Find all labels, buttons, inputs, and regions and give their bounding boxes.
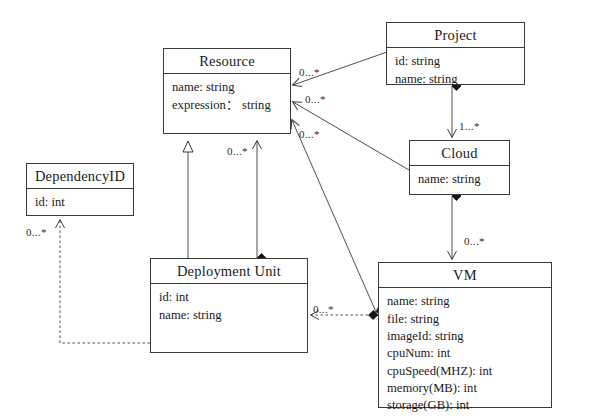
class-attributes-deployment-unit: id: int name: string — [151, 284, 307, 328]
class-attributes-resource: name: string expression： string — [164, 74, 290, 118]
attribute-row: expression： string — [172, 97, 290, 114]
class-attributes-dependencyid: id: int — [27, 189, 133, 215]
class-title-project: Project — [387, 23, 524, 48]
class-box-resource[interactable]: Resource name: string expression： string — [163, 48, 291, 134]
attribute-row: id: int — [35, 194, 133, 211]
multiplicity-label-project-resource: 0...* — [299, 66, 320, 78]
class-title-deployment-unit: Deployment Unit — [151, 259, 307, 284]
edge-cloud-vm — [452, 191, 461, 259]
class-box-project[interactable]: Project id: string name: string — [386, 22, 525, 85]
class-box-vm[interactable]: VM name: string file: string imageId: st… — [378, 262, 552, 408]
class-title-resource: Resource — [164, 49, 290, 74]
attribute-row: cpuNum: int — [387, 345, 551, 362]
uml-class-diagram: Resource name: string expression： string… — [0, 0, 591, 420]
class-box-dependencyid[interactable]: DependencyID id: int — [26, 163, 134, 216]
attribute-row: name: string — [387, 293, 551, 310]
attribute-row: file: string — [387, 311, 551, 328]
attribute-row: id: int — [159, 289, 307, 306]
class-attributes-vm: name: string file: string imageId: strin… — [379, 288, 551, 419]
class-attributes-project: id: string name: string — [387, 48, 524, 92]
edge-dependencyid-deployment — [60, 220, 160, 348]
multiplicity-label-vm-resource: 0...* — [299, 128, 320, 140]
attribute-row: imageId: string — [387, 328, 551, 345]
multiplicity-label-project-cloud: 1...* — [459, 120, 480, 132]
attribute-row: id: string — [395, 53, 524, 70]
class-box-cloud[interactable]: Cloud name: string — [409, 140, 510, 195]
attribute-row: name: string — [172, 79, 290, 96]
class-title-vm: VM — [379, 263, 551, 288]
class-box-deployment-unit[interactable]: Deployment Unit id: int name: string — [150, 258, 308, 353]
class-title-cloud: Cloud — [410, 141, 509, 166]
attribute-row: name: string — [159, 307, 307, 324]
class-attributes-cloud: name: string — [410, 166, 509, 192]
class-title-dependencyid: DependencyID — [27, 164, 133, 189]
multiplicity-label-cloud-vm: 0...* — [464, 235, 485, 247]
multiplicity-label-cloud-resource: 0...* — [305, 93, 326, 105]
attribute-row: cpuSpeed(MHZ): int — [387, 363, 551, 380]
attribute-row: storage(GB): int — [387, 397, 551, 414]
attribute-row: name: string — [395, 71, 524, 88]
multiplicity-label-resource-deployment: 0...* — [227, 145, 248, 157]
edge-resource-deployment — [257, 141, 266, 263]
attribute-row: memory(MB): int — [387, 380, 551, 397]
attribute-row: name: string — [418, 171, 509, 188]
multiplicity-label-deployment-vm: 0...* — [313, 303, 334, 315]
multiplicity-label-dependencyid: 0...* — [26, 226, 47, 238]
